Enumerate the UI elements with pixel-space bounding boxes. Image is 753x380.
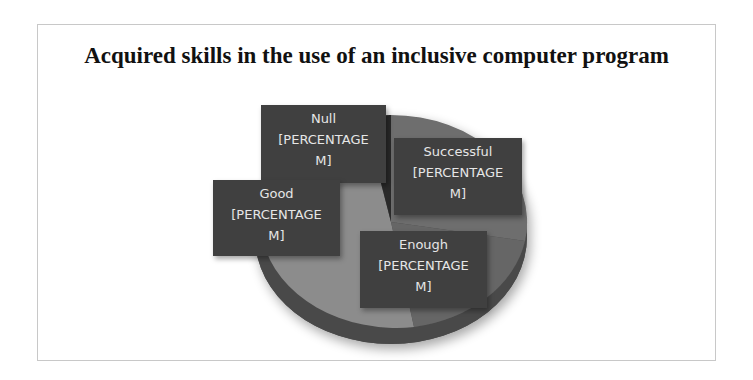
pie-chart (0, 0, 753, 380)
data-label-good: Good [PERCENTAGE M] (213, 180, 340, 256)
data-label-null: Null [PERCENTAGE M] (261, 105, 386, 183)
data-label-enough: Enough [PERCENTAGE M] (360, 231, 487, 308)
data-label-successful: Successful [PERCENTAGE M] (394, 138, 522, 215)
